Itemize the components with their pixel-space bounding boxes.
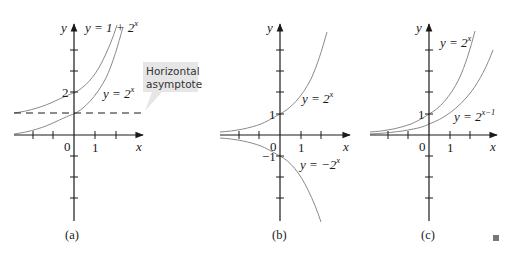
asymptote-callout: Horizontal asymptote — [143, 62, 202, 111]
curve-label-1-plus-2-to-x: y = 1 + 2x — [83, 18, 138, 35]
panel-a: y x 0 1 2 y = 1 + 2x y = 2x Horizontal a… — [14, 18, 202, 242]
curve-2-to-x — [14, 27, 123, 134]
callout-line-1: Horizontal — [146, 65, 200, 77]
curve-label-2-to-x: y = 2x — [101, 84, 135, 101]
x-axis-label: x — [135, 139, 142, 154]
y-tick-label-neg-1: −1 — [262, 149, 276, 164]
caption-b: (b) — [272, 228, 287, 242]
x-tick-label-1: 1 — [447, 140, 454, 155]
caption-c: (c) — [421, 228, 435, 242]
curve-label-2-to-x-minus-1: y = 2x−1 — [452, 107, 495, 124]
curve-label-2-to-x: y = 2x — [300, 89, 334, 106]
panel-b: y x 0 1 1 −1 y = 2x y = −2x (b) — [220, 20, 350, 242]
exponential-graphs-figure: y x 0 1 2 y = 1 + 2x y = 2x Horizontal a… — [0, 0, 514, 255]
y-axis-label: y — [265, 20, 273, 35]
x-axis-label: x — [342, 139, 349, 154]
caption-a: (a) — [65, 228, 79, 242]
x-axis-label: x — [489, 139, 496, 154]
callout-line-2: asymptote — [146, 78, 202, 90]
y-tick-label-1: 1 — [269, 107, 276, 122]
x-tick-label-1: 1 — [92, 140, 99, 155]
origin-label: 0 — [64, 139, 71, 154]
end-of-example-square-icon — [493, 235, 499, 241]
y-axis-label: y — [414, 20, 422, 35]
curve-label-2-to-x: y = 2x — [438, 33, 472, 50]
x-tick-label-1: 1 — [298, 140, 305, 155]
y-tick-label-1: 1 — [418, 107, 425, 122]
y-tick-label-2: 2 — [62, 85, 69, 100]
origin-label: 0 — [419, 139, 426, 154]
panel-c: y x 0 1 1 y = 2x y = 2x−1 (c) — [370, 20, 497, 242]
y-axis-label: y — [59, 20, 67, 35]
curve-label-neg-2-to-x: y = −2x — [298, 155, 340, 172]
